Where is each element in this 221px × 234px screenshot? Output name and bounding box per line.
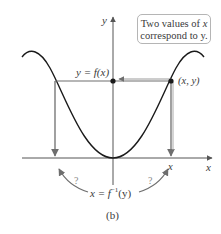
function-label: y = f(x) <box>76 67 109 78</box>
callout-line1: Two values of <box>141 18 203 29</box>
inverse-label: x = f−1(y) <box>90 187 131 199</box>
point-on-y-axis <box>110 78 115 83</box>
x-axis-label: x <box>206 162 211 173</box>
figure-caption: (b) <box>106 210 119 221</box>
callout-line2: correspond to y. <box>138 30 210 42</box>
callout-box: Two values of x correspond to y. <box>137 14 211 44</box>
question-right: ? <box>148 176 152 186</box>
question-left: ? <box>74 176 78 186</box>
inverse-arrow-right <box>139 169 168 192</box>
point-xy <box>168 78 173 83</box>
point-label: (x, y) <box>178 76 200 87</box>
callout-var: x <box>203 18 208 29</box>
x-value-label: x <box>168 162 173 173</box>
y-axis-label: y <box>102 15 107 26</box>
